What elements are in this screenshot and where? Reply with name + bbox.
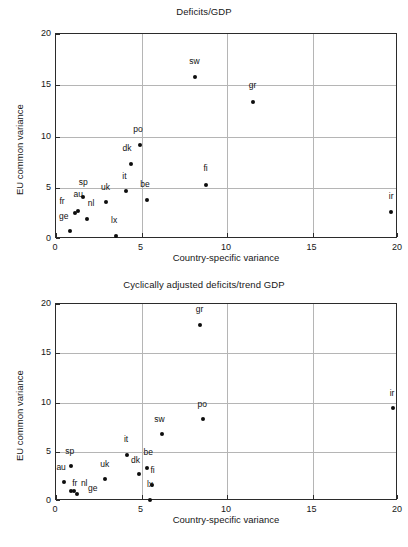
- data-point-label: ir: [389, 192, 394, 201]
- data-point: [251, 100, 255, 104]
- data-point: [193, 75, 197, 79]
- x-tick-label: 15: [297, 504, 327, 514]
- data-point: [114, 234, 118, 238]
- y-tick-label: 20: [25, 28, 51, 38]
- x-tick-label: 5: [126, 504, 156, 514]
- x-axis-label-top: Country-specific variance: [55, 252, 397, 263]
- data-point-label: sp: [79, 178, 88, 187]
- data-point: [75, 492, 79, 496]
- data-point: [145, 466, 149, 470]
- x-tick-mark: [56, 233, 57, 237]
- chart-title-top: Deficits/GDP: [0, 6, 408, 17]
- y-tick-label: 15: [25, 347, 51, 357]
- data-point: [124, 189, 128, 193]
- data-point-label: fi: [204, 164, 208, 173]
- data-point-label: it: [122, 172, 126, 181]
- gridline-horizontal: [56, 353, 396, 354]
- data-point-label: be: [144, 448, 153, 457]
- x-tick-label: 5: [126, 242, 156, 252]
- x-tick-label: 0: [40, 504, 70, 514]
- data-point: [201, 417, 205, 421]
- plot-area-top: gefraunlspuklxitdkpobeswfigrir: [55, 33, 397, 238]
- data-point: [138, 143, 142, 147]
- data-point: [198, 323, 202, 327]
- data-point: [104, 200, 108, 204]
- data-point-label: uk: [100, 460, 109, 469]
- x-tick-label: 0: [40, 242, 70, 252]
- data-point: [81, 195, 85, 199]
- data-point-label: fr: [72, 479, 77, 488]
- data-point-label: lx: [147, 480, 153, 489]
- data-point-label: ge: [88, 484, 97, 493]
- data-point-label: dk: [122, 144, 131, 153]
- x-tick-label: 10: [211, 504, 241, 514]
- data-point-label: po: [133, 125, 142, 134]
- data-point: [160, 432, 164, 436]
- y-axis-label-top: EU common variance: [14, 104, 25, 195]
- data-point-label: ge: [59, 212, 68, 221]
- data-point: [204, 183, 208, 187]
- plot-area-bottom: aufrnlgespukitdkbefilxswpogrir: [55, 303, 397, 500]
- data-point-label: nl: [88, 199, 95, 208]
- data-point: [125, 453, 129, 457]
- x-tick-mark: [142, 233, 143, 237]
- data-point-label: po: [197, 400, 206, 409]
- y-tick-mark: [56, 452, 60, 453]
- y-tick-mark: [56, 34, 60, 35]
- data-point: [76, 209, 80, 213]
- data-point-label: uk: [101, 183, 110, 192]
- x-tick-mark: [142, 495, 143, 499]
- data-point: [129, 162, 133, 166]
- data-point: [137, 472, 141, 476]
- gridline-horizontal: [56, 137, 396, 138]
- x-axis-label-bottom: Country-specific variance: [55, 514, 397, 525]
- y-tick-label: 5: [25, 446, 51, 456]
- data-point-label: gr: [249, 81, 257, 90]
- chart-panel-cyclically-adjusted: Cyclically adjusted deficits/trend GDP a…: [0, 273, 408, 547]
- x-tick-mark: [227, 233, 228, 237]
- data-point: [391, 406, 395, 410]
- y-tick-mark: [56, 403, 60, 404]
- y-tick-label: 5: [25, 182, 51, 192]
- data-point: [69, 464, 73, 468]
- data-point-label: sw: [189, 57, 199, 66]
- gridline-horizontal: [56, 85, 396, 86]
- data-point: [68, 229, 72, 233]
- gridline-vertical: [142, 34, 143, 237]
- x-tick-label: 15: [297, 242, 327, 252]
- y-tick-label: 10: [25, 131, 51, 141]
- x-tick-mark: [227, 495, 228, 499]
- x-tick-label: 20: [382, 242, 408, 252]
- data-point-label: be: [140, 180, 149, 189]
- data-point-label: lx: [111, 216, 117, 225]
- y-tick-label: 20: [25, 298, 51, 308]
- y-tick-mark: [56, 85, 60, 86]
- y-tick-mark: [56, 238, 60, 239]
- y-tick-mark: [56, 137, 60, 138]
- gridline-horizontal: [56, 403, 396, 404]
- x-tick-mark: [313, 233, 314, 237]
- data-point: [148, 498, 152, 502]
- gridline-horizontal: [56, 452, 396, 453]
- chart-title-bottom: Cyclically adjusted deficits/trend GDP: [0, 279, 408, 290]
- chart-panel-deficits-gdp: Deficits/GDP gefraunlspuklxitdkpobeswfig…: [0, 0, 408, 273]
- scatter-figure: Deficits/GDP gefraunlspuklxitdkpobeswfig…: [0, 0, 408, 547]
- data-point: [103, 477, 107, 481]
- x-tick-mark: [397, 495, 398, 499]
- gridline-vertical: [313, 34, 314, 237]
- data-point-label: ir: [390, 389, 395, 398]
- gridline-vertical: [142, 304, 143, 499]
- y-tick-label: 10: [25, 397, 51, 407]
- data-point-label: dk: [131, 456, 140, 465]
- data-point: [85, 217, 89, 221]
- data-point-label: sw: [154, 415, 164, 424]
- data-point-label: au: [56, 463, 65, 472]
- gridline-vertical: [313, 304, 314, 499]
- x-tick-label: 20: [382, 504, 408, 514]
- data-point-label: gr: [196, 305, 204, 314]
- gridline-vertical: [227, 34, 228, 237]
- data-point-label: sp: [65, 447, 74, 456]
- data-point: [62, 480, 66, 484]
- data-point: [145, 198, 149, 202]
- x-tick-mark: [397, 233, 398, 237]
